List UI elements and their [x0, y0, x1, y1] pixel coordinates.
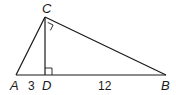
length-label-ad: 3	[28, 79, 35, 93]
vertex-label-d: D	[42, 78, 51, 93]
vertex-label-b: B	[161, 78, 170, 93]
right-angle-marker-d	[45, 68, 52, 75]
right-angle-marker-c	[48, 22, 53, 30]
triangle-diagram: C A D B 3 12	[0, 0, 176, 95]
vertex-label-a: A	[9, 78, 19, 93]
length-label-db: 12	[98, 79, 112, 93]
segment-ac	[16, 17, 45, 75]
segment-cb	[45, 17, 166, 75]
vertex-label-c: C	[42, 1, 52, 16]
